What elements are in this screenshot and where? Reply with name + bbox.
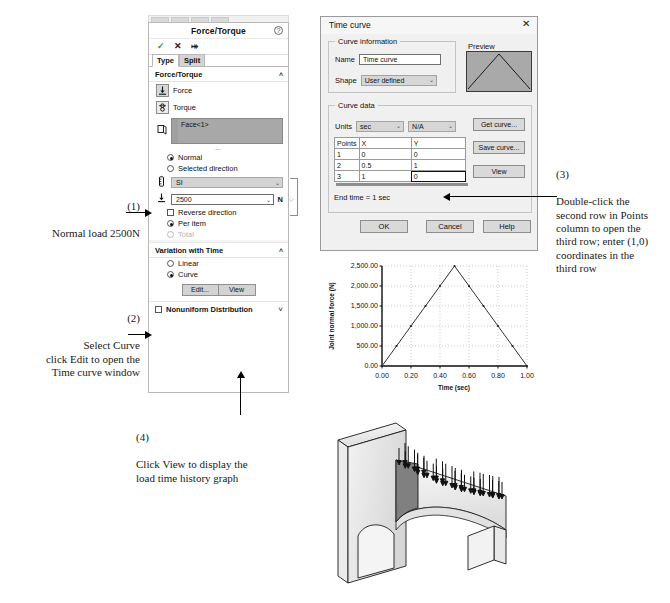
table-row[interactable]: 3 1 0 bbox=[335, 171, 466, 182]
y-units-value: N/A bbox=[412, 122, 424, 131]
curve-shape-dropdown[interactable]: User defined ⌄ bbox=[361, 75, 437, 86]
force-arrow-icon[interactable] bbox=[156, 84, 169, 97]
direction-option-normal[interactable]: Normal bbox=[149, 152, 288, 163]
property-manager-action-bar: ✓ ✕ ⤅ bbox=[149, 39, 288, 55]
help-button[interactable]: Help bbox=[483, 220, 531, 233]
chevron-down-icon[interactable]: ⌄ bbox=[448, 122, 453, 131]
cell-y-active[interactable]: 0 bbox=[411, 171, 465, 182]
chart-x-axis-title: Time (sec) bbox=[438, 384, 470, 392]
chart-x-tick-label: 0.60 bbox=[462, 372, 476, 379]
curve-button-group: Edit... View bbox=[149, 280, 288, 301]
chevron-down-icon[interactable]: ⌄ bbox=[396, 122, 401, 131]
cell-y[interactable]: 1 bbox=[411, 160, 465, 171]
force-unit-label: N bbox=[278, 195, 283, 204]
leader-arrowhead-4 bbox=[237, 371, 245, 378]
x-units-dropdown[interactable]: sec ⌄ bbox=[356, 121, 404, 132]
cell-point[interactable]: 3 bbox=[335, 171, 360, 182]
view-curve-button[interactable]: View bbox=[219, 284, 256, 296]
ok-checkmark-icon[interactable]: ✓ bbox=[157, 42, 165, 51]
reverse-direction-row[interactable]: Reverse direction bbox=[149, 207, 288, 218]
curve-data-table[interactable]: Points X Y 1 0 0 2 0.5 1 3 1 0 bbox=[334, 137, 466, 182]
tab-type[interactable]: Type bbox=[152, 54, 179, 67]
nonuniform-distribution-checkbox[interactable] bbox=[155, 306, 162, 313]
edit-curve-button[interactable]: Edit... bbox=[182, 284, 219, 296]
question-mark-icon[interactable]: ? bbox=[274, 26, 283, 35]
ok-button[interactable]: OK bbox=[360, 220, 408, 233]
torque-button-label[interactable]: Torque bbox=[173, 103, 196, 112]
total-label: Total bbox=[178, 230, 194, 239]
leader-arrowhead-2 bbox=[145, 331, 152, 339]
cell-x[interactable]: 0 bbox=[359, 149, 411, 160]
chevron-up-icon[interactable]: ˄ bbox=[279, 247, 283, 254]
face-selection-box[interactable]: Face<1> bbox=[171, 118, 283, 144]
model-wall-front bbox=[338, 440, 348, 583]
section-header-variation-with-time[interactable]: Variation with Time ˄ bbox=[149, 243, 288, 258]
reverse-direction-checkbox[interactable] bbox=[167, 209, 174, 216]
table-row[interactable]: 1 0 0 bbox=[335, 149, 466, 160]
close-x-icon[interactable]: ✕ bbox=[522, 19, 530, 29]
table-row[interactable]: 2 0.5 1 bbox=[335, 160, 466, 171]
force-value: 2500 bbox=[176, 196, 192, 203]
cell-x[interactable]: 0.5 bbox=[359, 160, 411, 171]
direction-option-normal-label: Normal bbox=[178, 153, 202, 162]
cancel-button[interactable]: Cancel bbox=[426, 220, 474, 233]
annotation-2: (2) Select Curve click Edit to open the … bbox=[8, 299, 140, 393]
radio-per-item[interactable] bbox=[167, 220, 174, 227]
curve-name-input[interactable]: Time curve bbox=[359, 54, 441, 65]
radio-curve[interactable] bbox=[167, 271, 174, 278]
cell-point[interactable]: 1 bbox=[335, 149, 360, 160]
torque-icon[interactable] bbox=[156, 101, 169, 114]
cell-x[interactable]: 1 bbox=[359, 171, 411, 182]
curve-information-group-label: Curve information bbox=[335, 37, 400, 46]
dialog-title-bar: Time curve ✕ bbox=[321, 17, 537, 34]
section-header-force-torque[interactable]: Force/Torque ˄ bbox=[149, 67, 288, 82]
chart-y-tick-label: 2,000.00 bbox=[351, 282, 378, 289]
direction-option-selected-direction[interactable]: Selected direction bbox=[149, 163, 288, 174]
radio-total[interactable] bbox=[167, 231, 174, 238]
chart-y-tick-label: 500.00 bbox=[357, 342, 379, 349]
total-row[interactable]: Total bbox=[149, 229, 288, 240]
annotation-4-text: Click View to display the load time hist… bbox=[136, 458, 286, 485]
leader-arrowhead-3 bbox=[443, 193, 450, 201]
nonuniform-distribution-row[interactable]: Nonuniform Distribution ˅ bbox=[149, 301, 288, 317]
annotation-3: (3) Double-click the second row in Point… bbox=[556, 155, 668, 289]
radio-linear[interactable] bbox=[167, 260, 174, 267]
unit-system-dropdown[interactable]: SI ⌄ bbox=[171, 177, 283, 188]
get-curve-button[interactable]: Get curve... bbox=[473, 118, 525, 131]
cancel-x-icon[interactable]: ✕ bbox=[174, 42, 182, 51]
chart-y-tick-labels: 0.00500.001,000.001,500.002,000.002,500.… bbox=[351, 262, 378, 369]
variation-option-linear[interactable]: Linear bbox=[149, 258, 288, 269]
cell-y[interactable]: 0 bbox=[411, 149, 465, 160]
chart-y-tick-label: 1,500.00 bbox=[351, 302, 378, 309]
save-curve-button[interactable]: Save curve... bbox=[473, 141, 525, 154]
chevron-up-icon[interactable]: ˄ bbox=[279, 71, 283, 78]
force-button-label[interactable]: Force bbox=[173, 86, 192, 95]
per-item-row[interactable]: Per item bbox=[149, 218, 288, 229]
table-header-row: Points X Y bbox=[335, 138, 466, 149]
pin-icon[interactable]: ⤅ bbox=[191, 42, 198, 51]
view-button[interactable]: View bbox=[473, 165, 525, 178]
curve-name-row: Name Time curve bbox=[335, 54, 441, 65]
chart-x-tick-label: 0.80 bbox=[491, 372, 505, 379]
property-manager-header: Force/Torque ? bbox=[149, 23, 288, 39]
chevron-down-icon[interactable]: ⌄ bbox=[266, 196, 271, 203]
chevron-down-icon[interactable]: ⌄ bbox=[275, 179, 280, 186]
selection-resize-grip[interactable]: ⋯ bbox=[149, 145, 288, 152]
leader-line-3 bbox=[449, 196, 557, 197]
tab-split[interactable]: Split bbox=[179, 54, 205, 66]
cell-point[interactable]: 2 bbox=[335, 160, 360, 171]
chevron-down-icon[interactable]: ⌄ bbox=[429, 76, 434, 85]
chevron-down-icon[interactable]: ˅ bbox=[278, 305, 283, 314]
model-arch-right-end bbox=[468, 526, 494, 570]
units-icon bbox=[156, 176, 167, 189]
radio-normal[interactable] bbox=[167, 154, 174, 161]
variation-option-curve[interactable]: Curve bbox=[149, 269, 288, 280]
force-value-input[interactable]: 2500 ⌄ bbox=[171, 194, 274, 205]
radio-selected-direction[interactable] bbox=[167, 165, 174, 172]
curve-data-group-label: Curve data bbox=[335, 101, 378, 110]
curve-name-label: Name bbox=[335, 55, 355, 64]
annotation-1-text: Normal load 2500N bbox=[18, 227, 140, 240]
annotation-1: (1) Normal load 2500N bbox=[18, 187, 140, 254]
end-time-label: End time = 1 sec bbox=[334, 193, 390, 202]
y-units-dropdown[interactable]: N/A ⌄ bbox=[408, 121, 456, 132]
